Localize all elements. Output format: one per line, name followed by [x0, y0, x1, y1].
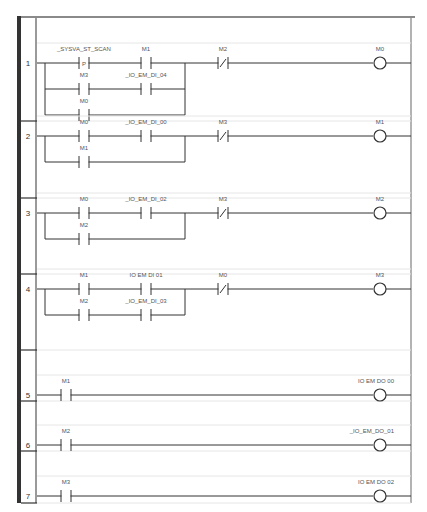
- no-contact[interactable]: _IO_EM_DI_04: [124, 72, 167, 95]
- contact-label: _SYSVA_ST_SCAN: [56, 46, 111, 52]
- no-contact[interactable]: M3: [61, 479, 71, 502]
- left-gutter-bar: [17, 16, 21, 503]
- output-coil[interactable]: IO EM DO 00: [358, 378, 411, 401]
- no-contact[interactable]: M0: [79, 98, 89, 121]
- coil-icon: [374, 389, 386, 401]
- no-contact[interactable]: M1: [79, 272, 89, 295]
- contact-gap: [142, 88, 151, 90]
- rung-number: 3: [26, 209, 31, 218]
- nc-contact[interactable]: M0: [218, 272, 228, 295]
- ladder-diagram: 1P_SYSVA_ST_SCANM1M3_IO_EM_DI_04M0M2M02M…: [0, 0, 427, 512]
- output-coil[interactable]: _IO_EM_DO_01: [349, 428, 411, 451]
- output-coil[interactable]: M3: [374, 272, 411, 295]
- contact-label: M2: [219, 46, 228, 52]
- coil-label: M0: [376, 46, 385, 52]
- contact-label: M3: [62, 479, 71, 485]
- coil-icon: [374, 207, 386, 219]
- no-contact[interactable]: M1: [79, 145, 89, 168]
- contact-label: _IO_EM_DI_02: [124, 196, 167, 202]
- contact-gap: [80, 88, 89, 90]
- no-contact[interactable]: _IO_EM_DI_03: [124, 298, 167, 321]
- contact-gap: [80, 212, 89, 214]
- coil-icon: [374, 57, 386, 69]
- coil-label: M2: [376, 196, 385, 202]
- coil-label: IO EM DO 00: [358, 378, 395, 384]
- rung-number: 4: [26, 285, 31, 294]
- output-coil[interactable]: M0: [374, 46, 411, 69]
- rung-number: 1: [26, 59, 31, 68]
- rungs-container: 1P_SYSVA_ST_SCANM1M3_IO_EM_DI_04M0M2M02M…: [21, 43, 411, 503]
- rung-2: 2M0_IO_EM_DI_00M1M3M1: [21, 116, 411, 198]
- contact-gap: [80, 314, 89, 316]
- contact-label: M0: [80, 119, 89, 125]
- coil-icon: [374, 283, 386, 295]
- contact-label: M3: [80, 72, 89, 78]
- contact-label: M0: [80, 196, 89, 202]
- contact-gap: [80, 238, 89, 240]
- nc-contact[interactable]: M2: [218, 46, 228, 69]
- rung-number: 2: [26, 132, 31, 141]
- contact-gap: [80, 288, 89, 290]
- rung-number: 6: [26, 441, 31, 450]
- nc-contact[interactable]: M3: [218, 196, 228, 219]
- no-contact[interactable]: IO EM DI 01: [129, 272, 163, 295]
- rung-3: 3M0_IO_EM_DI_02M2M3M2: [21, 193, 411, 274]
- no-contact[interactable]: M1: [61, 378, 71, 401]
- contact-gap: [62, 394, 71, 396]
- contact-label: M0: [219, 272, 228, 278]
- nc-contact[interactable]: M3: [218, 119, 228, 142]
- contact-label: M1: [80, 272, 89, 278]
- p-edge-icon: P: [82, 61, 86, 67]
- no-contact[interactable]: M2: [79, 222, 89, 245]
- rung-6: 6M2_IO_EM_DO_01: [21, 425, 411, 451]
- rung-7: 7M3IO EM DO 02: [21, 476, 411, 503]
- contact-label: M1: [62, 378, 71, 384]
- contact-label: M3: [219, 196, 228, 202]
- contact-gap: [142, 288, 151, 290]
- no-contact[interactable]: _IO_EM_DI_00: [124, 119, 167, 142]
- rung-number: 5: [26, 391, 31, 400]
- outer-frame-top: [17, 16, 415, 18]
- contact-label: _IO_EM_DI_00: [124, 119, 167, 125]
- contact-label: M1: [142, 46, 151, 52]
- left-power-rail: [35, 18, 37, 503]
- no-contact[interactable]: M1: [141, 46, 151, 69]
- output-coil[interactable]: IO EM DO 02: [358, 479, 411, 502]
- contact-gap: [80, 161, 89, 163]
- no-contact[interactable]: M3: [79, 72, 89, 95]
- contact-label: M2: [80, 298, 89, 304]
- coil-icon: [374, 130, 386, 142]
- contact-label: M3: [219, 119, 228, 125]
- contact-label: M0: [80, 98, 89, 104]
- contact-gap: [142, 314, 151, 316]
- no-contact[interactable]: M0: [79, 119, 89, 142]
- contact-gap: [142, 212, 151, 214]
- contact-gap: [142, 62, 151, 64]
- contact-label: _IO_EM_DI_04: [124, 72, 167, 78]
- output-coil[interactable]: M1: [374, 119, 411, 142]
- no-contact[interactable]: M2: [79, 298, 89, 321]
- coil-label: M1: [376, 119, 385, 125]
- contact-label: IO EM DI 01: [129, 272, 163, 278]
- no-contact[interactable]: _IO_EM_DI_02: [124, 196, 167, 219]
- contact-gap: [62, 444, 71, 446]
- rung-5: 5M1IO EM DO 00: [21, 375, 411, 401]
- rung-4: 4M1IO EM DI 01M2_IO_EM_DI_03M0M3: [21, 269, 411, 350]
- no-contact[interactable]: M0: [79, 196, 89, 219]
- no-contact[interactable]: M2: [61, 428, 71, 451]
- contact-label: M1: [80, 145, 89, 151]
- rung-number: 7: [26, 492, 31, 501]
- rising-edge-contact[interactable]: P_SYSVA_ST_SCAN: [56, 46, 111, 69]
- contact-gap: [80, 135, 89, 137]
- output-coil[interactable]: M2: [374, 196, 411, 219]
- contact-label: M2: [80, 222, 89, 228]
- contact-gap: [62, 495, 71, 497]
- coil-label: M3: [376, 272, 385, 278]
- coil-label: _IO_EM_DO_01: [349, 428, 395, 434]
- contact-label: _IO_EM_DI_03: [124, 298, 167, 304]
- contact-label: M2: [62, 428, 71, 434]
- coil-icon: [374, 439, 386, 451]
- coil-label: IO EM DO 02: [358, 479, 395, 485]
- rung-1: 1P_SYSVA_ST_SCANM1M3_IO_EM_DI_04M0M2M0: [21, 43, 411, 121]
- coil-icon: [374, 490, 386, 502]
